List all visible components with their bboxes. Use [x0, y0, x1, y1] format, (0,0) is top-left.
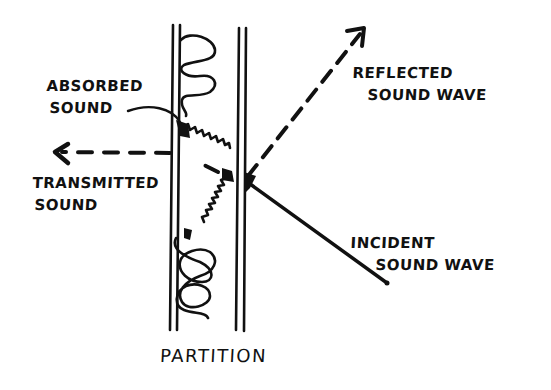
absorbed-sound-label: ABSORBED SOUND [45, 75, 144, 119]
absorbed-zigzag [183, 124, 230, 148]
partition-left-leaf [170, 25, 180, 330]
insulation-lower-coil [175, 238, 215, 318]
reflected-wave-dashed [248, 34, 360, 176]
absorbed-zigzag-down [202, 178, 226, 222]
transmitted-sound-dashed [62, 152, 218, 172]
partition-label: PARTITION [159, 345, 267, 367]
insulation-upper-coil [181, 35, 215, 116]
incident-wave-label: INCIDENT SOUND WAVE [349, 232, 497, 276]
reflected-wave-label: REFLECTED SOUND WAVE [351, 62, 489, 106]
transmitted-sound-label: TRANSMITTED SOUND [31, 172, 160, 216]
